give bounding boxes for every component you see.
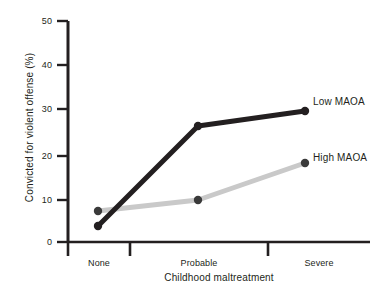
y-axis-ticks — [57, 21, 68, 242]
y-axis-title: Convicted for violent offense (%) — [24, 23, 35, 233]
line-chart: 50 40 30 20 10 0 None Probable Severe Ch… — [0, 0, 387, 299]
x-axis-category-dividers — [68, 242, 268, 256]
x-axis-title: Childhood maltreatment — [68, 272, 370, 283]
x-tick-label-probable: Probable — [131, 258, 267, 268]
x-tick-label-none: None — [69, 258, 129, 268]
x-tick-label-severe: Severe — [269, 258, 369, 268]
series-markers-low-maoa — [94, 107, 309, 230]
plot-area — [0, 0, 387, 299]
series-label-high-maoa: High MAOA — [313, 152, 367, 163]
series-line-high-maoa — [98, 163, 305, 211]
series-label-low-maoa: Low MAOA — [313, 96, 365, 107]
y-tick-label-0: 0 — [28, 237, 52, 247]
